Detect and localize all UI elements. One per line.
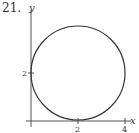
- y-axis-label: y: [28, 2, 35, 13]
- x-axis-label: x: [130, 115, 136, 126]
- circle-curve: [31, 26, 125, 120]
- y-tick-label-2: 2: [22, 69, 27, 78]
- circle-plot: 2 4 2 x y: [0, 0, 139, 133]
- x-tick-label-2: 2: [75, 125, 80, 133]
- x-tick-label-4: 4: [122, 125, 127, 133]
